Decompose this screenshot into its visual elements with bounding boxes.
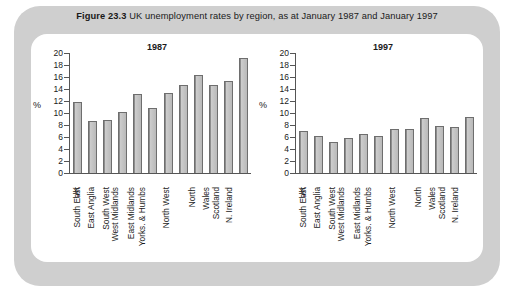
- plot-area-1987: % 02468101214161820: [31, 53, 257, 185]
- bar: [73, 102, 82, 173]
- bar: [450, 127, 459, 173]
- chart-title-1987: 1987: [31, 42, 257, 52]
- x-tick-label: East Midlands: [353, 187, 361, 239]
- bar-slot: [115, 53, 130, 173]
- figure-page: Figure 23.3 UK unemployment rates by reg…: [0, 0, 514, 295]
- bar: [148, 108, 157, 173]
- bar-slot: [371, 53, 386, 173]
- bar-slot: [145, 53, 160, 173]
- bar-slot: [161, 53, 176, 173]
- y-tick-label: 20: [280, 49, 289, 58]
- x-tick-label: North: [414, 187, 422, 207]
- x-label-slot: N. Ireland: [462, 187, 477, 259]
- bar: [224, 81, 233, 173]
- y-tick-label: 6: [58, 133, 63, 142]
- figure-number: Figure 23.3: [76, 11, 126, 21]
- x-tick-label: West Midlands: [337, 187, 345, 241]
- y-tick-labels-1997: 02468101214161820: [267, 53, 289, 173]
- y-axis-title-1997: %: [259, 100, 267, 110]
- x-tick-label: South West: [327, 187, 335, 230]
- bars-1987: [70, 53, 251, 173]
- x-tick-label: West Midlands: [111, 187, 119, 241]
- x-tick-labels-1997: UKSouth EastEast AngliaSouth WestWest Mi…: [296, 187, 477, 259]
- x-axis-line-1997: [295, 173, 477, 174]
- bars-1997: [296, 53, 477, 173]
- bar-slot: [341, 53, 356, 173]
- x-label-slot: East Midlands: [371, 187, 386, 259]
- y-tick-label: 0: [284, 169, 289, 178]
- bar: [359, 134, 368, 173]
- y-tick-label: 14: [54, 85, 63, 94]
- x-label-slot: N. Ireland: [236, 187, 251, 259]
- bar-slot: [387, 53, 402, 173]
- x-label-slot: East Midlands: [145, 187, 160, 259]
- bar: [344, 138, 353, 173]
- x-tick-label: Wales: [428, 187, 436, 210]
- y-tick-label: 4: [58, 145, 63, 154]
- bar: [88, 121, 97, 173]
- bar-slot: [432, 53, 447, 173]
- bar-slot: [462, 53, 477, 173]
- y-tick-label: 16: [54, 73, 63, 82]
- y-tick-label: 8: [284, 121, 289, 130]
- bar-slot: [221, 53, 236, 173]
- x-tick-labels-1987: UKSouth EastEast AngliaSouth WestWest Mi…: [70, 187, 251, 259]
- x-tick-label: South West: [101, 187, 109, 230]
- bar-slot: [176, 53, 191, 173]
- bar-slot: [191, 53, 206, 173]
- bar: [179, 85, 188, 173]
- figure-caption: Figure 23.3 UK unemployment rates by reg…: [14, 11, 500, 21]
- y-tick-labels-1987: 02468101214161820: [41, 53, 63, 173]
- bar-slot: [85, 53, 100, 173]
- y-tick-label: 0: [58, 169, 63, 178]
- bar: [420, 118, 429, 173]
- bar-slot: [100, 53, 115, 173]
- bar: [194, 75, 203, 173]
- y-tick-label: 6: [284, 133, 289, 142]
- x-tick-label: Wales: [202, 187, 210, 210]
- x-tick-label: North West: [388, 187, 396, 228]
- bar-slot: [236, 53, 251, 173]
- y-tick-label: 10: [54, 109, 63, 118]
- bar: [164, 93, 173, 173]
- bar: [133, 94, 142, 173]
- x-tick-label: Scotland: [212, 187, 220, 219]
- y-tick-label: 12: [280, 97, 289, 106]
- bar-slot: [326, 53, 341, 173]
- plot-area-1997: % 02468101214161820: [257, 53, 483, 185]
- bar-slot: [417, 53, 432, 173]
- x-tick-label: North West: [162, 187, 170, 228]
- y-tick-label: 18: [54, 61, 63, 70]
- bar-slot: [70, 53, 85, 173]
- y-tick-label: 2: [284, 157, 289, 166]
- bar-slot: [296, 53, 311, 173]
- bar: [390, 129, 399, 173]
- bar-slot: [356, 53, 371, 173]
- bar: [329, 142, 338, 173]
- y-tick-label: 4: [284, 145, 289, 154]
- bar: [118, 112, 127, 173]
- bar: [239, 58, 248, 173]
- bar: [374, 136, 383, 173]
- bar: [405, 129, 414, 173]
- y-tick-label: 14: [280, 85, 289, 94]
- x-tick-label: North: [188, 187, 196, 207]
- x-tick-label: South East: [72, 187, 80, 228]
- x-tick-label: East Anglia: [313, 187, 321, 229]
- y-tick-label: 20: [54, 49, 63, 58]
- bar-slot: [402, 53, 417, 173]
- bar: [314, 136, 323, 173]
- y-tick-label: 18: [280, 61, 289, 70]
- y-tick-label: 16: [280, 73, 289, 82]
- y-tick-label: 2: [58, 157, 63, 166]
- y-tick-label: 8: [58, 121, 63, 130]
- bar: [103, 120, 112, 173]
- y-tick-label: 12: [54, 97, 63, 106]
- charts-container: 1987 % 02468101214161820 UKSouth EastEas…: [31, 40, 483, 262]
- bar-slot: [311, 53, 326, 173]
- bar: [299, 131, 308, 173]
- x-tick-label: East Anglia: [87, 187, 95, 229]
- bar: [209, 85, 218, 173]
- x-tick-label: N. Ireland: [225, 187, 233, 223]
- chart-1987: 1987 % 02468101214161820 UKSouth EastEas…: [31, 40, 257, 262]
